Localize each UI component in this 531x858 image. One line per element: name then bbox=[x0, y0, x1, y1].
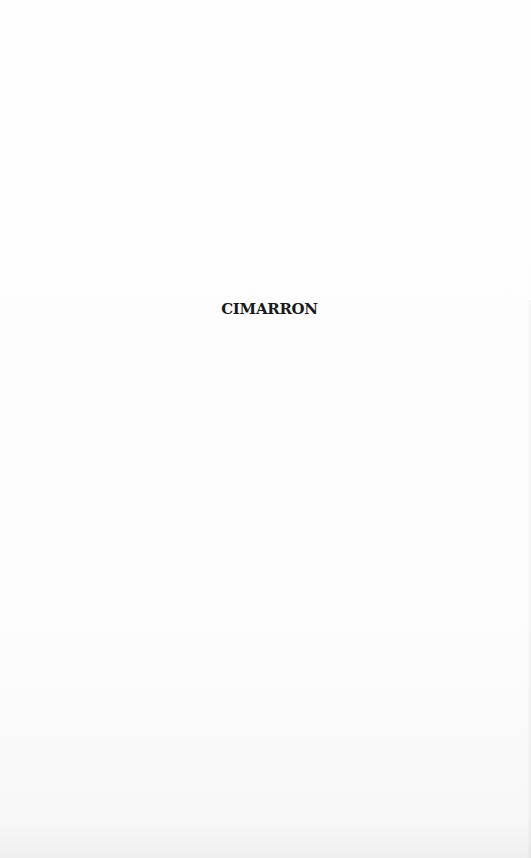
page-edge-shadow bbox=[527, 300, 531, 858]
book-page: CIMARRON bbox=[0, 0, 531, 858]
half-title: CIMARRON bbox=[0, 300, 531, 318]
scan-noise bbox=[0, 818, 531, 858]
